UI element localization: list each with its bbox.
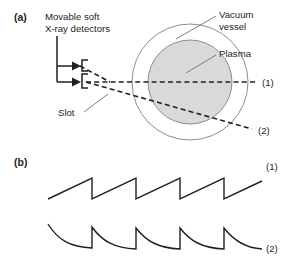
vacuum-vessel-label-line2: vessel xyxy=(219,21,246,32)
slot-bracket-upper xyxy=(82,60,88,71)
slot-label: Slot xyxy=(58,107,75,118)
waveform-trace-2 xyxy=(48,224,262,249)
slot-leader-line xyxy=(84,94,108,112)
sightline-1-label: (1) xyxy=(262,77,274,88)
panel-a-letter: (a) xyxy=(14,11,27,23)
panel-b: (b) (1) (2) xyxy=(14,156,278,254)
vacuum-vessel-label-line1: Vacuum xyxy=(219,9,253,20)
plasma-label: Plasma xyxy=(219,48,252,59)
waveform-trace-2-label: (2) xyxy=(266,243,278,254)
panel-b-letter: (b) xyxy=(14,156,27,168)
detectors-label-line1: Movable soft xyxy=(45,11,100,22)
detector-arrow-upper-head xyxy=(72,62,81,71)
panel-a: (a) Movable soft X-ray detectors xyxy=(14,9,274,140)
slot-bracket-lower xyxy=(82,74,88,88)
sightline-2-label: (2) xyxy=(258,125,270,136)
detectors-label-line2: X-ray detectors xyxy=(45,23,110,34)
waveform-trace-1-label: (1) xyxy=(266,161,278,172)
figure-canvas: (a) Movable soft X-ray detectors xyxy=(0,0,292,262)
detector-arrow-lower-head xyxy=(72,78,81,87)
waveform-trace-1 xyxy=(48,178,262,199)
figure-root: (a) Movable soft X-ray detectors xyxy=(0,0,292,262)
